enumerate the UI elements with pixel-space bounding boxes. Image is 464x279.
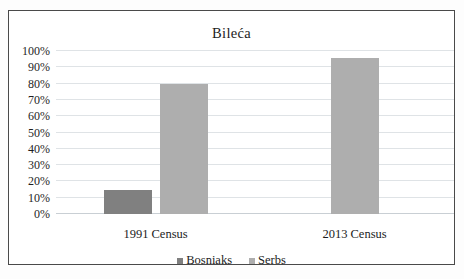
legend-swatch-icon [249, 258, 255, 264]
y-axis-tick-label: 50% [28, 125, 50, 140]
chart-page: Bileća 100%90%80%70%60%50%40%30%20%10%0%… [0, 0, 464, 279]
y-axis-tick-label: 60% [28, 109, 50, 124]
plot-area [56, 51, 454, 225]
chart-title: Bileća [9, 25, 454, 42]
bar-group-container [56, 51, 454, 225]
bar-serbs-2013[interactable] [331, 58, 379, 214]
legend-item-serbs[interactable]: Serbs [249, 253, 286, 268]
bar-serbs-1991[interactable] [160, 84, 208, 214]
x-axis-category-label: 1991 Census [123, 227, 187, 242]
y-axis-tick-label: 70% [28, 92, 50, 107]
y-axis-tick-label: 100% [22, 44, 50, 59]
y-axis-tick-label: 0% [34, 207, 50, 222]
legend-item-bosniaks[interactable]: Bosniaks [177, 253, 232, 268]
y-axis: 100%90%80%70%60%50%40%30%20%10%0% [9, 51, 54, 225]
y-axis-tick-label: 20% [28, 174, 50, 189]
chart-legend: BosniaksSerbs [9, 253, 454, 268]
legend-label: Bosniaks [186, 253, 232, 268]
legend-swatch-icon [177, 258, 183, 264]
y-axis-tick-label: 80% [28, 76, 50, 91]
y-axis-tick-label: 90% [28, 60, 50, 75]
chart-frame: Bileća 100%90%80%70%60%50%40%30%20%10%0%… [8, 10, 455, 265]
y-axis-tick-label: 10% [28, 190, 50, 205]
bar-bosniaks-1991[interactable] [104, 190, 152, 214]
y-axis-tick-label: 40% [28, 141, 50, 156]
legend-label: Serbs [258, 253, 286, 268]
x-axis: 1991 Census2013 Census [56, 227, 454, 247]
x-axis-category-label: 2013 Census [322, 227, 386, 242]
y-axis-tick-label: 30% [28, 158, 50, 173]
